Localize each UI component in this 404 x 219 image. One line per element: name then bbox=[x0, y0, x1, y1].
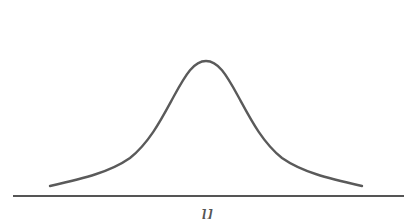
mean-label: μ bbox=[197, 202, 217, 219]
bell-curve bbox=[50, 61, 362, 186]
normal-distribution-diagram: μ bbox=[0, 0, 404, 219]
